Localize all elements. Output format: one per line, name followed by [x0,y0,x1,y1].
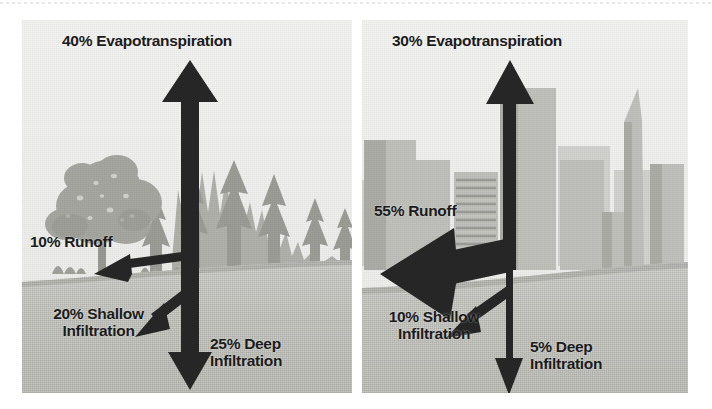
label-deep-infiltration-left-line2: Infiltration [210,352,282,369]
label-evapotranspiration-right: 30% Evapotranspiration [392,32,562,49]
label-shallow-infiltration-right-line1: 10% Shallow [389,308,480,325]
label-shallow-infiltration-left: 20% Shallow Infiltration [26,305,171,339]
arrowhead-evapotranspiration-right [486,60,534,104]
label-runoff-right: 55% Runoff [374,202,456,219]
label-shallow-infiltration-left-line2: Infiltration [62,322,134,339]
label-deep-infiltration-right-line1: 5% Deep [530,338,593,355]
label-shallow-infiltration-left-line1: 20% Shallow [53,305,144,322]
figure-canvas: 40% Evapotranspiration 10% Runoff 20% Sh… [0,0,712,409]
label-runoff-left: 10% Runoff [30,233,112,250]
arrow-shaft-vertical-left [181,100,199,365]
arrowhead-deep-infiltration-right [495,358,523,393]
arrowhead-deep-infiltration-left [168,352,212,390]
label-shallow-infiltration-right-line2: Infiltration [398,325,470,342]
label-evapotranspiration-left: 40% Evapotranspiration [62,32,232,49]
label-deep-infiltration-right-line2: Infiltration [530,355,602,372]
arrowhead-evapotranspiration-left [162,60,218,102]
panel-urban-cover: 30% Evapotranspiration 55% Runoff 10% Sh… [362,20,688,393]
label-deep-infiltration-left: 25% Deep Infiltration [210,335,345,369]
top-divider-rule [0,2,712,4]
panel-natural-cover: 40% Evapotranspiration 10% Runoff 20% Sh… [22,20,352,393]
label-deep-infiltration-left-line1: 25% Deep [210,335,281,352]
arrow-runoff-left [94,252,182,282]
label-shallow-infiltration-right: 10% Shallow Infiltration [362,308,508,342]
label-deep-infiltration-right: 5% Deep Infiltration [530,338,670,372]
